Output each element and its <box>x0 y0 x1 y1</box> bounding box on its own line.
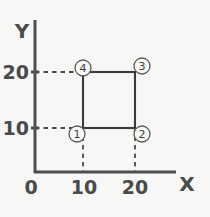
y-axis-label: Y <box>14 19 30 43</box>
vertex-label-2: 2 <box>139 128 146 141</box>
vertex-marker-4: 4 <box>75 60 91 76</box>
diagram-canvas: Y X 20 10 0 10 20 1 2 3 4 <box>0 0 210 217</box>
vertex-label-1: 1 <box>74 128 81 141</box>
x-tick-label-10: 10 <box>71 176 97 198</box>
vertex-label-4: 4 <box>80 62 87 75</box>
square-shape <box>83 72 135 128</box>
vertex-marker-3: 3 <box>134 58 150 74</box>
x-axis-label: X <box>179 172 195 196</box>
y-tick-label-10: 10 <box>3 117 29 139</box>
y-tick-label-20: 20 <box>3 61 29 83</box>
x-tick-label-20: 20 <box>122 176 148 198</box>
vertex-marker-2: 2 <box>134 126 150 142</box>
origin-label: 0 <box>24 176 37 198</box>
vertex-label-3: 3 <box>139 60 146 73</box>
coordinate-diagram: Y X 20 10 0 10 20 1 2 3 4 <box>0 0 210 217</box>
vertex-marker-1: 1 <box>69 126 85 142</box>
